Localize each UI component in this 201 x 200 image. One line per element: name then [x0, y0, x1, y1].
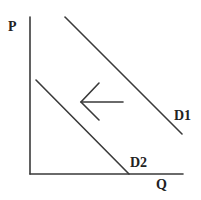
y-axis-label: P — [8, 19, 17, 34]
demand-curve-d2 — [36, 80, 129, 174]
d1-label: D1 — [174, 108, 191, 123]
demand-curve-d1 — [65, 17, 182, 134]
demand-shift-diagram: P Q D1 D2 — [0, 0, 201, 200]
shift-arrow-icon — [81, 83, 123, 120]
x-axis-label: Q — [156, 177, 167, 192]
d2-label: D2 — [130, 155, 147, 170]
